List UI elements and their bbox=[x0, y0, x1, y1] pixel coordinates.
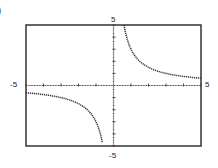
branch-left-curve bbox=[26, 93, 102, 143]
x-max-label: 5 bbox=[205, 80, 210, 89]
axes bbox=[26, 25, 201, 146]
branch-right-curve bbox=[124, 25, 201, 78]
x-min-label: -5 bbox=[10, 80, 18, 89]
y-min-label: -5 bbox=[109, 151, 117, 160]
y-max-label: 5 bbox=[111, 15, 116, 24]
hyperbola-chart: -5 5 5 -5 bbox=[0, 0, 218, 168]
